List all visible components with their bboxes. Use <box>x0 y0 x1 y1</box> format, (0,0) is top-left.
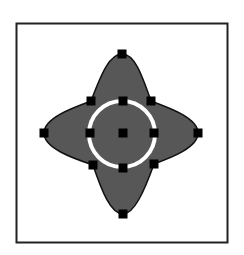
handle-tip-top[interactable] <box>118 50 127 59</box>
handle-junction-bottom-right[interactable] <box>150 160 159 169</box>
handle-circle-top[interactable] <box>119 97 128 106</box>
handle-tip-right[interactable] <box>194 129 203 138</box>
handle-circle-bottom[interactable] <box>119 164 128 173</box>
handle-tip-left[interactable] <box>40 129 49 138</box>
handle-junction-top-right[interactable] <box>147 97 156 106</box>
handle-circle-left[interactable] <box>86 129 95 138</box>
handle-junction-bottom-left[interactable] <box>89 161 98 170</box>
handle-tip-bottom[interactable] <box>119 210 128 219</box>
handle-center[interactable] <box>119 129 128 138</box>
handle-circle-right[interactable] <box>150 129 159 138</box>
diagram-canvas <box>0 0 244 255</box>
handle-junction-top-left[interactable] <box>87 97 96 106</box>
